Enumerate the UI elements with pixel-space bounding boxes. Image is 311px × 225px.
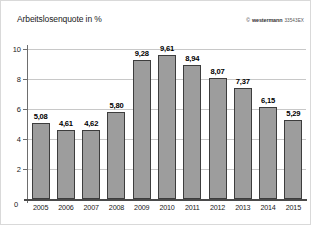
publisher-code: 33543EX xyxy=(284,18,304,23)
x-axis-label: 2010 xyxy=(153,203,181,212)
x-axis-label: 2012 xyxy=(204,203,232,212)
bar-value-label: 9,61 xyxy=(151,44,183,53)
y-axis-label: 2 xyxy=(1,165,21,174)
bar xyxy=(234,88,252,199)
y-axis-label: 8 xyxy=(1,75,21,84)
bar xyxy=(183,65,201,199)
x-axis-label: 2008 xyxy=(102,203,130,212)
y-axis-zero-label: 0 xyxy=(14,200,18,209)
bar-value-label: 5,29 xyxy=(277,109,309,118)
bar-value-label: 6,15 xyxy=(252,96,284,105)
bar-value-label: 5,80 xyxy=(100,101,132,110)
bar-value-label: 8,07 xyxy=(202,67,234,76)
x-axis-label: 2013 xyxy=(229,203,257,212)
bar xyxy=(107,112,125,199)
chart-title: Arbeitslosenquote in % xyxy=(17,14,102,24)
bar-value-label: 7,37 xyxy=(227,77,259,86)
y-axis-label: 6 xyxy=(1,105,21,114)
x-axis-label: 2009 xyxy=(128,203,156,212)
bar xyxy=(284,120,302,199)
x-axis-label: 2005 xyxy=(27,203,55,212)
x-axis-label: 2007 xyxy=(77,203,105,212)
x-axis-line xyxy=(24,199,307,201)
y-axis-label: 10 xyxy=(1,45,21,54)
copyright-credit: © westermann 33543EX xyxy=(246,17,304,23)
copyright-symbol: © xyxy=(246,17,250,23)
bar xyxy=(259,107,277,199)
bar xyxy=(57,130,75,199)
y-axis-label: 4 xyxy=(1,135,21,144)
bar-value-label: 4,62 xyxy=(75,119,107,128)
publisher-name: westermann xyxy=(252,17,282,23)
bar xyxy=(82,130,100,199)
x-axis-label: 2015 xyxy=(279,203,307,212)
bar-value-label: 8,94 xyxy=(176,54,208,63)
bar xyxy=(209,78,227,199)
x-axis-label: 2011 xyxy=(178,203,206,212)
chart-figure: Arbeitslosenquote in % © westermann 3354… xyxy=(0,0,311,225)
x-axis-label: 2014 xyxy=(254,203,282,212)
plot-area: 5,084,614,625,809,289,618,948,077,376,15… xyxy=(28,49,306,199)
x-axis-label: 2006 xyxy=(52,203,80,212)
bar xyxy=(32,123,50,199)
bar xyxy=(133,60,151,199)
bar xyxy=(158,55,176,199)
